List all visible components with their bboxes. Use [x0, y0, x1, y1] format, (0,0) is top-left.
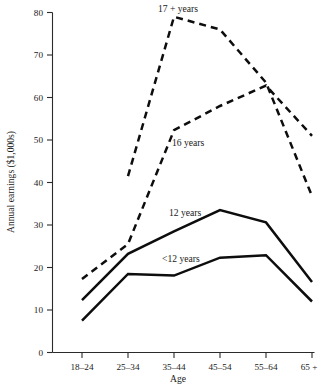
y-tick-label: 70: [34, 50, 44, 60]
series-line-16-years: [82, 86, 312, 279]
series-label-12-years: 12 years: [169, 207, 202, 218]
y-tick-label: 20: [34, 263, 44, 273]
x-tick-label: 65 +: [301, 362, 318, 372]
y-axis-title: Annual earnings ($1,000s): [5, 131, 17, 233]
x-axis-ticks: 18–24 25–34 35–44 45–54 55–64 65 +: [71, 353, 318, 372]
y-tick-label: 60: [34, 93, 44, 103]
x-tick-label: 25–34: [117, 362, 140, 372]
x-tick-label: 45–54: [209, 362, 232, 372]
axes: [53, 13, 315, 353]
x-tick-label: 55–64: [255, 362, 278, 372]
x-tick-label: 35–44: [163, 362, 186, 372]
line-chart: 0 10 20 30 40 50 60 70 80 18–24 25–34: [0, 0, 327, 386]
x-tick-label: 18–24: [71, 362, 94, 372]
series-label-16-years: 16 years: [172, 137, 205, 148]
series-label-17-plus-years: 17 + years: [158, 3, 198, 14]
chart-container: 0 10 20 30 40 50 60 70 80 18–24 25–34: [0, 0, 327, 386]
y-tick-label: 30: [34, 220, 44, 230]
series-group: [82, 17, 312, 321]
series-label-less-than-12-years: <12 years: [162, 253, 200, 264]
x-axis-title: Age: [170, 373, 186, 384]
y-tick-label: 0: [38, 348, 43, 358]
y-tick-label: 10: [34, 305, 44, 315]
y-tick-label: 80: [34, 8, 44, 18]
y-tick-label: 40: [34, 178, 44, 188]
series-annotations: 17 + years 16 years 12 years <12 years: [158, 3, 205, 265]
y-tick-label: 50: [34, 135, 44, 145]
y-axis-ticks: 0 10 20 30 40 50 60 70 80: [34, 8, 53, 358]
